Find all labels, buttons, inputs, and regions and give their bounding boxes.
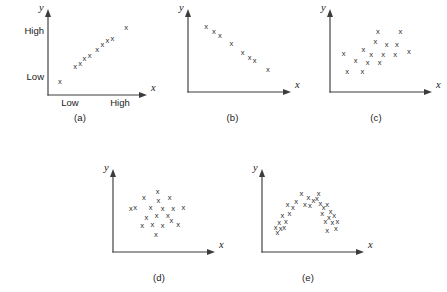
scatter-marker: x xyxy=(88,51,92,60)
scatter-marker: x xyxy=(395,40,399,49)
scatter-marker: x xyxy=(381,50,385,59)
x-axis-title: x xyxy=(367,239,373,250)
scatter-marker: x xyxy=(361,45,365,54)
panel-e-caption: (e) xyxy=(237,272,379,283)
figure-scatterplot-panels: y x High Low Low High xxxxxxxxxx (a) y x… xyxy=(0,0,447,292)
scatter-marker: x xyxy=(149,203,153,212)
panel-a-points: xxxxxxxxxx xyxy=(58,23,128,85)
y-axis-arrow-icon xyxy=(259,169,265,177)
scatter-marker: x xyxy=(161,221,165,230)
panel-b-axes xyxy=(185,9,291,95)
scatter-marker: x xyxy=(369,50,373,59)
scatter-marker: x xyxy=(144,213,148,222)
panel-d-chart: y x xxxxxxxxxxxxxxxxxxx xyxy=(88,160,230,268)
x-axis-arrow-icon xyxy=(139,92,147,98)
x-tick-high-label: High xyxy=(110,97,130,108)
y-tick-high-label: High xyxy=(24,25,44,36)
panel-e-chart: y x xxxxxxxxxxxxxxxxxxxxxxxxxxxxxx xyxy=(237,160,379,268)
scatter-marker: x xyxy=(218,31,222,40)
scatter-marker: x xyxy=(124,23,128,32)
scatter-marker: x xyxy=(407,47,411,56)
panel-c-caption: (c) xyxy=(305,112,447,123)
scatter-marker: x xyxy=(385,40,389,49)
scatter-marker: x xyxy=(378,58,382,67)
scatter-marker: x xyxy=(100,40,104,49)
scatter-marker: x xyxy=(248,53,252,62)
scatter-marker: x xyxy=(169,216,173,225)
scatter-marker: x xyxy=(140,221,144,230)
x-axis-title: x xyxy=(150,82,156,93)
panel-e-axes xyxy=(259,169,364,255)
y-tick-low-label: Low xyxy=(27,71,45,82)
scatter-marker: x xyxy=(366,58,370,67)
scatter-marker: x xyxy=(83,54,87,63)
panel-e: y x xxxxxxxxxxxxxxxxxxxxxxxxxxxxxx (e) xyxy=(237,160,379,268)
y-axis-title: y xyxy=(320,2,326,13)
scatter-marker: x xyxy=(241,48,245,57)
panel-c: y x xxxxxxxxxxxxxxxx (c) xyxy=(305,0,447,108)
panel-b-caption: (b) xyxy=(160,112,305,123)
scatter-marker: x xyxy=(253,56,257,65)
panel-b-chart: y x xxxxxxxx xyxy=(160,0,305,108)
scatter-marker: x xyxy=(286,200,290,209)
panel-a: y x High Low Low High xxxxxxxxxx (a) xyxy=(0,0,160,108)
scatter-marker: x xyxy=(354,56,358,65)
y-axis-arrow-icon xyxy=(45,9,51,17)
scatter-marker: x xyxy=(161,204,165,213)
panel-d: y x xxxxxxxxxxxxxxxxxxx (d) xyxy=(88,160,230,268)
y-axis-title: y xyxy=(178,2,184,13)
y-axis-arrow-icon xyxy=(185,9,191,17)
y-axis-title: y xyxy=(103,162,109,173)
scatter-marker: x xyxy=(361,67,365,76)
scatter-marker: x xyxy=(166,211,170,220)
x-axis-arrow-icon xyxy=(356,249,364,255)
scatter-marker: x xyxy=(181,203,185,212)
scatter-marker: x xyxy=(212,27,216,36)
scatter-marker: x xyxy=(133,203,137,212)
panel-e-points: xxxxxxxxxxxxxxxxxxxxxxxxxxxxxx xyxy=(274,189,340,238)
scatter-marker: x xyxy=(95,45,99,54)
scatter-marker: x xyxy=(294,197,298,206)
scatter-marker: x xyxy=(376,27,380,36)
scatter-marker: x xyxy=(168,193,172,202)
scatter-marker: x xyxy=(325,226,329,235)
scatter-marker: x xyxy=(284,217,288,226)
y-axis-arrow-icon xyxy=(327,9,333,17)
scatter-marker: x xyxy=(393,50,397,59)
scatter-marker: x xyxy=(315,194,319,203)
scatter-marker: x xyxy=(171,204,175,213)
scatter-marker: x xyxy=(266,65,270,74)
x-axis-title: x xyxy=(435,79,441,90)
scatter-marker: x xyxy=(151,220,155,229)
panel-b-points: xxxxxxxx xyxy=(204,22,270,74)
panel-c-points: xxxxxxxxxxxxxxxx xyxy=(342,27,411,76)
x-axis-arrow-icon xyxy=(283,89,291,95)
scatter-marker: x xyxy=(281,211,285,220)
scatter-marker: x xyxy=(155,211,159,220)
scatter-marker: x xyxy=(345,67,349,76)
scatter-marker: x xyxy=(129,204,133,213)
panel-d-points: xxxxxxxxxxxxxxxxxxx xyxy=(129,187,185,239)
panel-c-chart: y x xxxxxxxxxxxxxxxx xyxy=(305,0,447,108)
panel-a-chart: y x High Low Low High xxxxxxxxxx xyxy=(0,0,160,108)
scatter-marker: x xyxy=(111,34,115,43)
scatter-marker: x xyxy=(398,27,402,36)
scatter-marker: x xyxy=(176,220,180,229)
scatter-marker: x xyxy=(204,22,208,31)
x-axis-title: x xyxy=(218,239,224,250)
y-axis-title: y xyxy=(38,2,44,13)
x-axis-arrow-icon xyxy=(424,89,432,95)
panel-b: y x xxxxxxxx (b) xyxy=(160,0,305,108)
y-axis-title: y xyxy=(252,162,258,173)
scatter-marker: x xyxy=(142,193,146,202)
x-axis-arrow-icon xyxy=(207,249,215,255)
scatter-marker: x xyxy=(154,230,158,239)
scatter-marker: x xyxy=(106,36,110,45)
panel-d-caption: (d) xyxy=(88,272,230,283)
y-axis-arrow-icon xyxy=(110,169,116,177)
x-tick-low-label: Low xyxy=(61,97,79,108)
scatter-marker: x xyxy=(300,189,304,198)
scatter-marker: x xyxy=(342,49,346,58)
panel-a-caption: (a) xyxy=(0,112,160,123)
scatter-marker: x xyxy=(73,62,77,71)
